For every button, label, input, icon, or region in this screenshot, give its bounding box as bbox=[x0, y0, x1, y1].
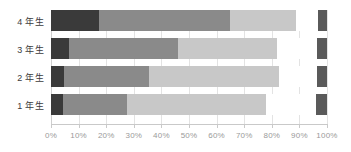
bar-segment-segment3[interactable] bbox=[149, 66, 279, 87]
bar-segment-segment5[interactable] bbox=[317, 38, 327, 59]
bar-row[interactable] bbox=[51, 38, 327, 59]
bar-segment-segment5[interactable] bbox=[318, 10, 327, 31]
category-label: 4 年生 bbox=[0, 15, 44, 28]
bar-segment-segment1[interactable] bbox=[51, 10, 99, 31]
x-axis-tick bbox=[106, 124, 107, 128]
category-axis: 4 年生3 年生2 年生1 年生 bbox=[0, 0, 51, 124]
bar-segment-segment2[interactable] bbox=[69, 38, 178, 59]
bar-segment-segment4[interactable] bbox=[296, 10, 318, 31]
bar-segment-segment5[interactable] bbox=[316, 94, 327, 115]
x-axis-tick bbox=[272, 124, 273, 128]
x-axis-tick bbox=[327, 124, 328, 128]
bar-segment-segment4[interactable] bbox=[266, 94, 316, 115]
bar-segment-segment2[interactable] bbox=[64, 66, 149, 87]
x-axis-ticks bbox=[51, 124, 328, 129]
bar-segment-segment3[interactable] bbox=[127, 94, 266, 115]
bar-segment-segment3[interactable] bbox=[178, 38, 277, 59]
x-axis-tick bbox=[299, 124, 300, 128]
bar-segment-segment4[interactable] bbox=[279, 66, 318, 87]
gridline bbox=[327, 10, 328, 124]
bar-row[interactable] bbox=[51, 94, 327, 115]
bar-segment-segment2[interactable] bbox=[63, 94, 127, 115]
x-axis-tick bbox=[134, 124, 135, 128]
x-axis-tick bbox=[79, 124, 80, 128]
x-axis-tick bbox=[51, 124, 52, 128]
bar-row[interactable] bbox=[51, 66, 327, 87]
bar-series bbox=[51, 10, 327, 124]
bar-segment-segment1[interactable] bbox=[51, 94, 63, 115]
bar-segment-segment2[interactable] bbox=[99, 10, 230, 31]
bar-segment-segment1[interactable] bbox=[51, 66, 64, 87]
plot-area bbox=[51, 10, 327, 124]
x-axis-tick-labels: 0%10%20%30%40%50%60%70%80%90%100% bbox=[0, 131, 351, 145]
x-axis-tick-label: 100% bbox=[307, 131, 347, 140]
stacked-bar-chart: 4 年生3 年生2 年生1 年生 0%10%20%30%40%50%60%70%… bbox=[0, 0, 351, 152]
bar-segment-segment5[interactable] bbox=[317, 66, 327, 87]
x-axis-tick bbox=[244, 124, 245, 128]
bar-segment-segment3[interactable] bbox=[230, 10, 296, 31]
bar-row[interactable] bbox=[51, 10, 327, 31]
category-label: 3 年生 bbox=[0, 43, 44, 56]
category-label: 2 年生 bbox=[0, 71, 44, 84]
x-axis-tick bbox=[189, 124, 190, 128]
x-axis-tick bbox=[161, 124, 162, 128]
x-axis-tick bbox=[217, 124, 218, 128]
category-label: 1 年生 bbox=[0, 99, 44, 112]
bar-segment-segment4[interactable] bbox=[277, 38, 317, 59]
bar-segment-segment1[interactable] bbox=[51, 38, 69, 59]
